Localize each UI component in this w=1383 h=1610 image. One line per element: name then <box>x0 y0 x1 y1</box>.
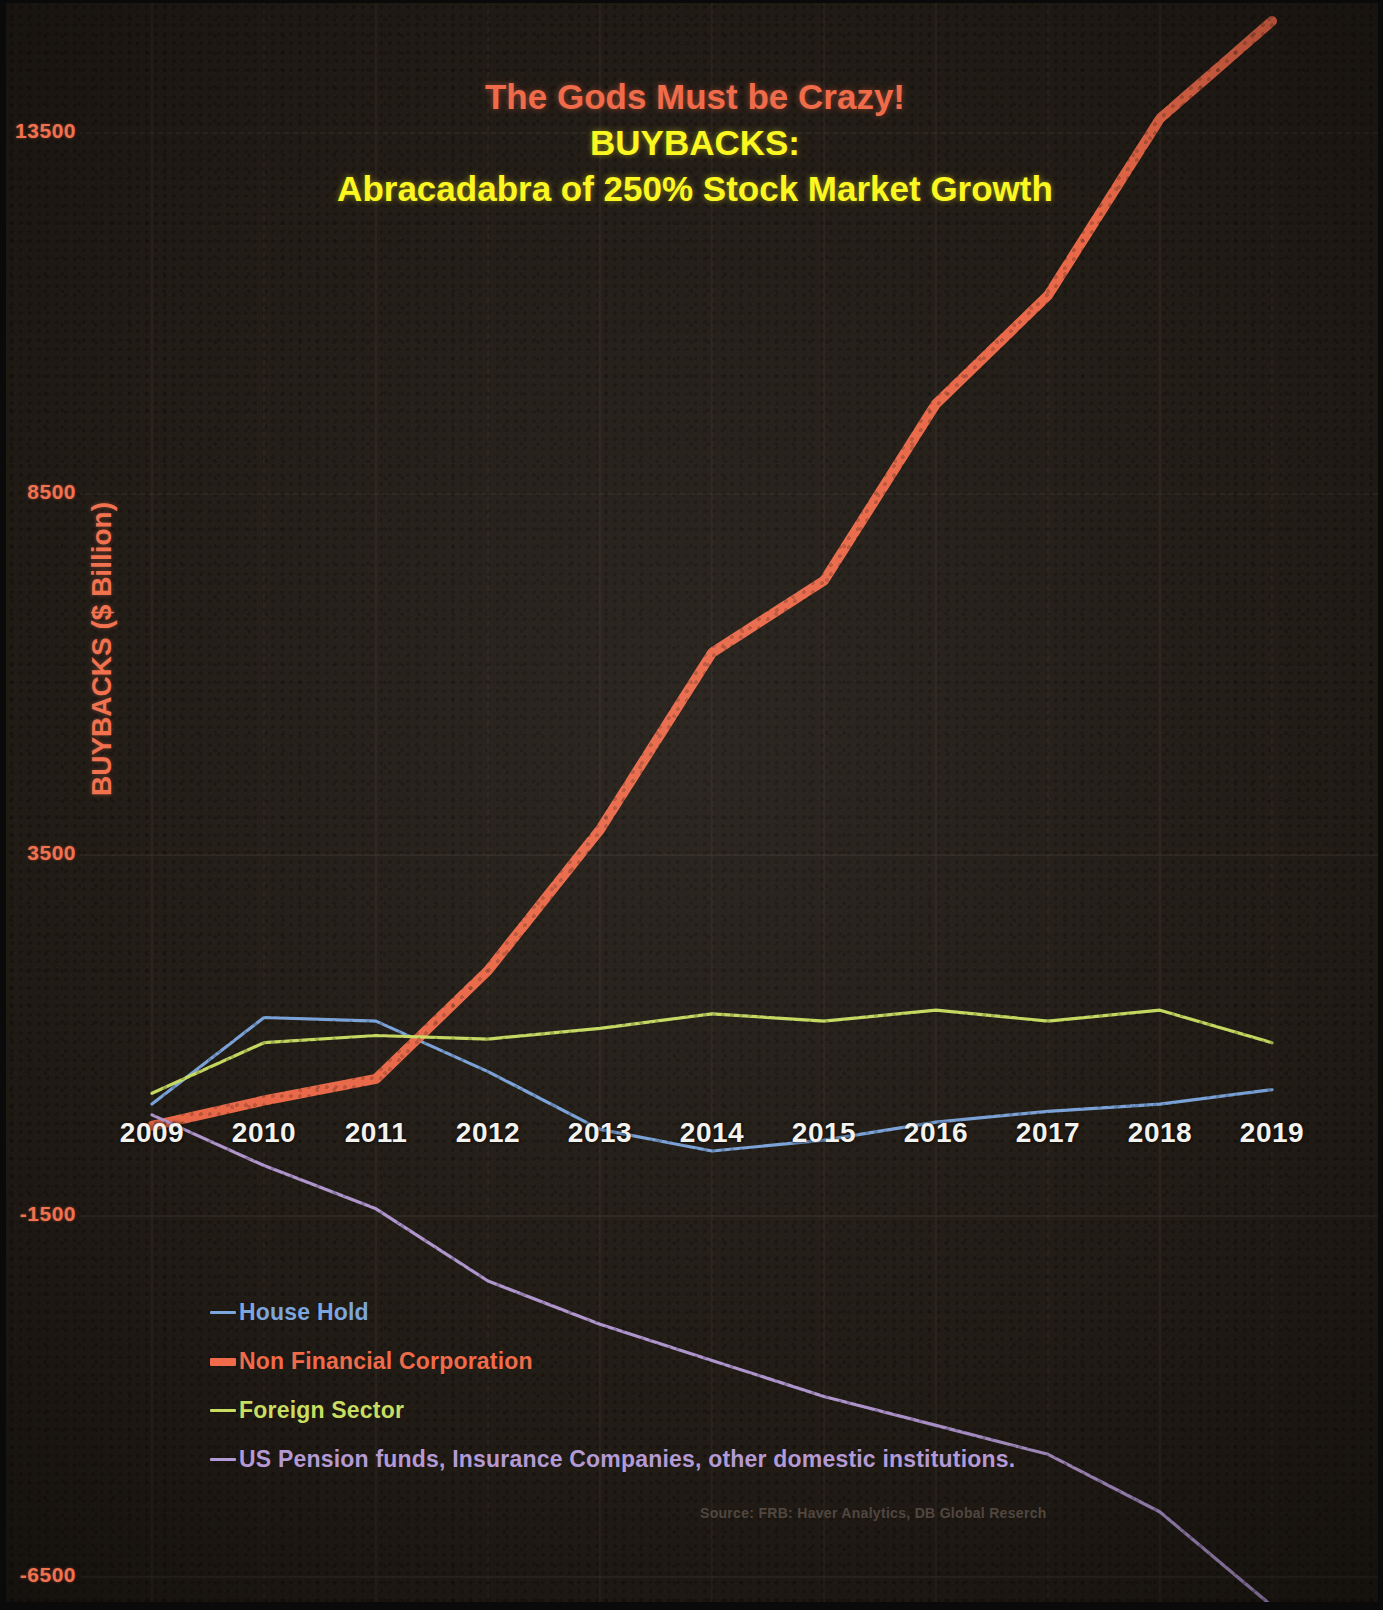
legend-swatch-icon-1 <box>210 1358 236 1366</box>
y-tick-3500: 3500 <box>27 841 76 865</box>
legend-swatch-icon-0 <box>210 1311 236 1314</box>
x-tick-2019: 2019 <box>1227 1117 1317 1149</box>
x-tick-2015: 2015 <box>779 1117 869 1149</box>
legend-swatch-icon-2 <box>210 1409 236 1412</box>
x-tick-2017: 2017 <box>1003 1117 1093 1149</box>
y-tick-neg1500: -1500 <box>20 1202 76 1226</box>
legend-item-2[interactable]: Foreign Sector <box>210 1386 1015 1435</box>
y-tick-8500: 8500 <box>27 480 76 504</box>
legend-label-2: Foreign Sector <box>239 1397 404 1424</box>
chart-title-line3: Abracadabra of 250% Stock Market Growth <box>150 166 1240 212</box>
legend-label-3: US Pension funds, Insurance Companies, o… <box>239 1446 1015 1473</box>
x-tick-2018: 2018 <box>1115 1117 1205 1149</box>
legend-item-0[interactable]: House Hold <box>210 1288 1015 1337</box>
chart-title-block: The Gods Must be Crazy! BUYBACKS: Abraca… <box>150 74 1240 213</box>
y-axis-title: BUYBACKS ($ Billion) <box>86 516 118 796</box>
source-note: Source: FRB: Haver Analytics, DB Global … <box>700 1505 1047 1521</box>
x-tick-2014: 2014 <box>667 1117 757 1149</box>
chart-canvas: The Gods Must be Crazy! BUYBACKS: Abraca… <box>0 0 1383 1610</box>
top-border <box>0 0 1383 3</box>
y-tick-neg6500: -6500 <box>20 1563 76 1587</box>
legend-label-1: Non Financial Corporation <box>239 1348 533 1375</box>
legend-label-0: House Hold <box>239 1299 369 1326</box>
x-tick-2013: 2013 <box>555 1117 645 1149</box>
right-border <box>1378 0 1383 1610</box>
chart-title-line1: The Gods Must be Crazy! <box>150 74 1240 120</box>
y-tick-13500: 13500 <box>15 119 76 143</box>
legend-item-3[interactable]: US Pension funds, Insurance Companies, o… <box>210 1435 1015 1484</box>
chart-title-line2: BUYBACKS: <box>150 120 1240 166</box>
x-tick-2009: 2009 <box>107 1117 197 1149</box>
x-tick-2016: 2016 <box>891 1117 981 1149</box>
legend-swatch-icon-3 <box>210 1458 236 1461</box>
chart-legend: House HoldNon Financial CorporationForei… <box>210 1288 1015 1484</box>
x-tick-2011: 2011 <box>331 1117 421 1149</box>
legend-item-1[interactable]: Non Financial Corporation <box>210 1337 1015 1386</box>
x-tick-2010: 2010 <box>219 1117 309 1149</box>
bottom-border <box>0 1602 1383 1610</box>
x-tick-2012: 2012 <box>443 1117 533 1149</box>
left-border <box>0 0 6 1610</box>
